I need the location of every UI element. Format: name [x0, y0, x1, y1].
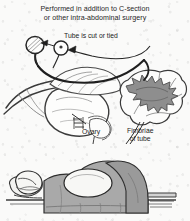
patient-head — [16, 171, 42, 194]
ligature-clamp — [26, 37, 44, 54]
illustration-page: Performed in addition to C-section or ot… — [0, 0, 190, 221]
tube-label-arrowhead — [68, 46, 76, 53]
tube-label-leader-line — [70, 46, 150, 59]
table-foot-extension — [148, 193, 176, 197]
label-ovary: Ovary — [82, 128, 100, 136]
figure-caption: Performed in addition to C-section or ot… — [0, 5, 190, 23]
label-fimbriae-line-1: Fimbriae — [127, 127, 153, 135]
caption-line-1: Performed in addition to C-section — [0, 5, 190, 14]
patient-on-table-diagram — [0, 155, 190, 221]
clamp-stem — [35, 53, 38, 66]
label-fimbriae-line-2: of tube — [127, 135, 153, 143]
exposed-abdomen — [64, 169, 112, 197]
fimbriae-group — [120, 70, 186, 125]
suture-tie-stem — [53, 55, 59, 68]
label-tube-cut-or-tied: Tube is cut or tied — [64, 32, 118, 40]
label-fimbriae-of-tube: Fimbriae of tube — [127, 127, 153, 142]
suture-tie-center — [59, 45, 62, 48]
